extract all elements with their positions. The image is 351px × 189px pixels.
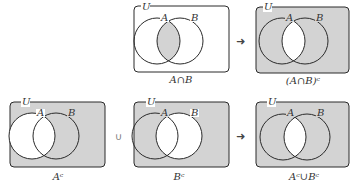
set-a-label: A xyxy=(286,107,294,118)
panel-caption: A∩B xyxy=(169,74,193,85)
panel-caption: Aᶜ xyxy=(52,171,64,182)
set-b-label: B xyxy=(316,107,324,118)
set-a-label: A xyxy=(285,12,293,23)
set-b-label: B xyxy=(67,107,75,118)
arrow-icon: ➜ xyxy=(236,130,245,143)
set-b-label: B xyxy=(315,12,323,23)
venn-diagram-figure: U A B A∩B ➜ U A B (A∩B)ᶜ U A B Aᶜ xyxy=(0,0,351,189)
panel-caption: Bᶜ xyxy=(173,171,185,182)
arrow-icon: ➜ xyxy=(236,35,245,48)
venn-panel-complement-of-a-intersect-b: U A B (A∩B)ᶜ xyxy=(256,1,349,86)
universe-label: U xyxy=(142,1,151,12)
universe-label: U xyxy=(264,1,273,12)
set-b-label: B xyxy=(190,12,198,23)
universe-label: U xyxy=(147,96,156,107)
set-a-label: A xyxy=(160,107,168,118)
set-a-label: A xyxy=(36,107,44,118)
venn-panel-a-complement: U A B Aᶜ xyxy=(9,96,105,182)
set-b-label: B xyxy=(190,107,198,118)
venn-panel-b-complement: U A B Bᶜ xyxy=(132,96,229,182)
venn-panel-a-intersect-b: U A B A∩B xyxy=(134,1,229,85)
venn-panel-a-complement-union-b-complement: U A B Aᶜ∪Bᶜ xyxy=(256,96,349,182)
union-symbol: ∪ xyxy=(115,131,122,142)
universe-label: U xyxy=(22,96,31,107)
set-a-label: A xyxy=(160,12,168,23)
universe-label: U xyxy=(268,96,277,107)
panel-caption: (A∩B)ᶜ xyxy=(286,75,321,86)
panel-caption: Aᶜ∪Bᶜ xyxy=(288,171,319,182)
